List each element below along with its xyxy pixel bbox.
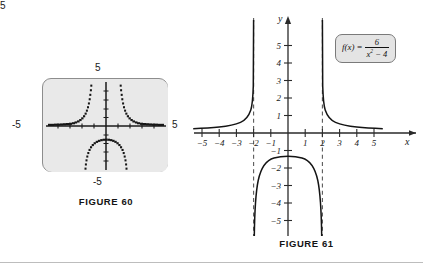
figure-60: 5 — [0, 0, 212, 274]
svg-text:−5: −5 — [270, 216, 281, 226]
figure-61-caption: FIGURE 61 — [190, 238, 423, 249]
formula-numerator: 6 — [373, 38, 381, 47]
svg-text:−5: −5 — [197, 138, 208, 148]
calculator-screen — [42, 78, 168, 172]
svg-text:−2: −2 — [248, 138, 259, 148]
svg-text:−3: −3 — [231, 138, 242, 148]
curve-left-branch — [193, 20, 253, 129]
svg-text:−1: −1 — [270, 146, 281, 156]
page-bottom-rule — [0, 262, 423, 263]
figure-60-caption: FIGURE 60 — [0, 196, 212, 207]
figure-60-plot — [43, 79, 169, 173]
calc-window-ymax-label: 5 — [95, 62, 101, 73]
formula-fraction: 6 x2 − 4 — [365, 38, 390, 58]
svg-text:5: 5 — [277, 41, 282, 51]
svg-text:5: 5 — [372, 138, 377, 148]
svg-text:1: 1 — [303, 138, 308, 148]
x-axis — [194, 129, 416, 137]
svg-text:2: 2 — [277, 93, 282, 103]
svg-text:−3: −3 — [270, 181, 281, 191]
svg-text:1: 1 — [277, 111, 282, 121]
svg-text:4: 4 — [355, 138, 360, 148]
x-axis-label: x — [404, 136, 410, 147]
svg-text:3: 3 — [276, 76, 282, 86]
formula-denominator: x2 − 4 — [365, 47, 390, 58]
x-tick-labels: −5 −4 −3 −2 −1 1 2 3 4 5 — [197, 138, 377, 148]
svg-text:4: 4 — [277, 58, 282, 68]
calc-window-ymin-label: -5 — [93, 176, 102, 187]
calc-window-xmin-label: -5 — [12, 119, 21, 130]
formula-equals: = — [357, 43, 363, 52]
calc-window-label-top: 5 — [0, 0, 6, 11]
textbook-figure-page: 5 — [0, 0, 423, 274]
function-formula-box: f(x) = 6 x2 − 4 — [335, 34, 396, 63]
svg-text:2: 2 — [320, 138, 325, 148]
formula-lhs: f(x) — [342, 43, 355, 52]
y-axis-label: y — [277, 13, 283, 24]
calc-window-xmax-label: 5 — [172, 119, 178, 130]
svg-text:−2: −2 — [270, 163, 281, 173]
svg-text:−4: −4 — [214, 138, 225, 148]
svg-text:3: 3 — [336, 138, 342, 148]
svg-text:−4: −4 — [270, 198, 281, 208]
y-axis — [284, 16, 292, 236]
